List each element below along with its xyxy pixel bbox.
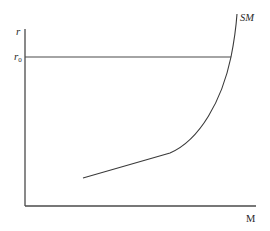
r0-label: r0 <box>14 50 22 64</box>
y-axis-label: r <box>16 25 21 37</box>
x-axis-label: M <box>246 213 256 224</box>
sm-curve-label: SM <box>240 12 255 23</box>
sm-curve <box>83 14 237 178</box>
supply-of-money-diagram: r r0 SM M <box>0 0 270 231</box>
